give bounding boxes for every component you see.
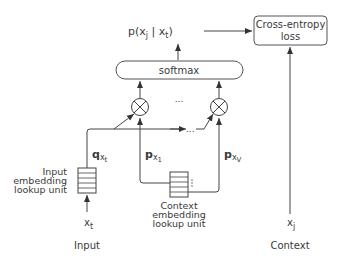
ellipsis-top: ... — [175, 94, 184, 104]
q-vector-line — [87, 129, 183, 168]
input-caption: Input — [74, 240, 100, 251]
softmax-label: softmax — [159, 65, 199, 76]
loss-box-line1: Cross-entropy — [256, 19, 326, 30]
input-unit-line3: lookup unit — [14, 184, 67, 195]
multiply-node-1 — [132, 99, 149, 116]
diagram-canvas: p(xj | xt) Cross-entropy loss softmax ..… — [0, 0, 339, 263]
ellipsis-mid: ... — [186, 124, 195, 134]
pV-label: pxV — [224, 148, 242, 164]
input-embedding-table — [78, 168, 96, 193]
p1-label: px1 — [145, 148, 162, 164]
probability-label: p(xj | xt) — [128, 25, 173, 40]
multiply-node-v — [211, 99, 228, 116]
arrow-q-to-multV — [196, 114, 213, 129]
context-caption: Context — [270, 240, 309, 251]
input-var: xt — [84, 217, 93, 231]
loss-box-line2: loss — [281, 31, 300, 42]
context-embedding-table — [170, 172, 193, 197]
context-unit-line3: lookup unit — [153, 218, 206, 229]
context-var: xj — [287, 217, 295, 231]
q-label: qxt — [92, 148, 108, 164]
arrow-q-to-mult1 — [114, 114, 134, 129]
